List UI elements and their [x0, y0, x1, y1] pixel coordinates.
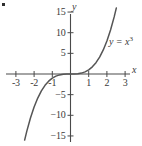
x-tick-label: 2: [97, 78, 117, 88]
y-tick-label: 5: [40, 48, 66, 58]
y-tick-label: −10: [40, 110, 66, 120]
x-tick-label: 1: [79, 78, 99, 88]
y-tick-label: 15: [40, 7, 66, 17]
x-axis-label: x: [132, 65, 136, 75]
x-tick-label: -2: [24, 78, 44, 88]
y-tick-label: 10: [40, 28, 66, 38]
y-axis-label: y: [72, 2, 76, 12]
y-tick-label: −15: [40, 131, 66, 141]
x-tick-label: -1: [42, 78, 62, 88]
cubic-function-graph-figure: -3-2-1123 15105−5−10−15 x y y = x3: [0, 0, 142, 146]
x-tick-label: 3: [115, 78, 135, 88]
y-tick-label: −5: [40, 90, 66, 100]
curve-equation-text: y = x: [109, 36, 130, 47]
plot-canvas: [0, 0, 142, 146]
curve-equation-label: y = x3: [109, 37, 133, 47]
x-tick-label: -3: [6, 78, 26, 88]
curve-equation-exponent: 3: [130, 35, 134, 43]
